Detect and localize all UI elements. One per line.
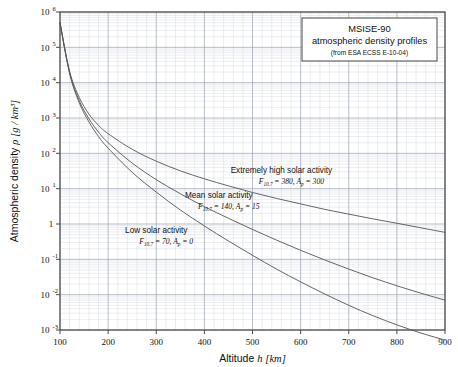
svg-text:1: 1 <box>53 181 56 188</box>
x-tick-label: 500 <box>246 337 260 347</box>
x-axis-title: Altitude h [km] <box>219 352 286 364</box>
svg-text:10: 10 <box>41 78 51 88</box>
x-tick-label: 300 <box>150 337 164 347</box>
svg-text:-2: -2 <box>53 287 58 294</box>
y-axis-title: Atmospheric density ρ [g / km³] <box>8 100 20 242</box>
svg-text:10: 10 <box>41 113 51 123</box>
svg-text:-3: -3 <box>53 323 58 330</box>
x-tick-label: 700 <box>342 337 356 347</box>
title-line-1: MSISE-90 <box>348 24 390 34</box>
y-tick-label: 1 <box>49 219 54 229</box>
title-line-3: (from ESA ECSS E-10-04) <box>331 49 408 57</box>
chart-title-box: MSISE-90atmospheric density profiles(fro… <box>302 18 437 61</box>
svg-text:1: 1 <box>49 219 54 229</box>
svg-text:10: 10 <box>41 290 51 300</box>
svg-text:10: 10 <box>41 149 51 159</box>
x-tick-label: 800 <box>390 337 404 347</box>
svg-text:10: 10 <box>41 43 51 53</box>
svg-text:5: 5 <box>53 40 56 47</box>
x-tick-label: 100 <box>53 337 67 347</box>
x-tick-label: 400 <box>198 337 212 347</box>
svg-text:10: 10 <box>41 7 51 17</box>
svg-text:Low solar activity: Low solar activity <box>125 226 188 235</box>
svg-text:Extremely high solar activity: Extremely high solar activity <box>231 166 333 175</box>
svg-text:10: 10 <box>41 255 51 265</box>
svg-text:10: 10 <box>41 325 51 335</box>
svg-text:3: 3 <box>53 111 56 118</box>
density-profile-chart: 100200300400500600700800900 10-310-210-1… <box>0 0 458 367</box>
x-tick-label: 200 <box>101 337 115 347</box>
x-tick-label: 600 <box>294 337 308 347</box>
svg-text:10: 10 <box>41 184 51 194</box>
x-axis-tick-labels: 100200300400500600700800900 <box>53 337 452 347</box>
title-line-2: atmospheric density profiles <box>312 36 428 46</box>
svg-text:Mean solar activity: Mean solar activity <box>185 191 254 200</box>
svg-text:-1: -1 <box>53 252 58 259</box>
chart-figure: 100200300400500600700800900 10-310-210-1… <box>0 0 458 367</box>
svg-text:2: 2 <box>53 146 56 153</box>
